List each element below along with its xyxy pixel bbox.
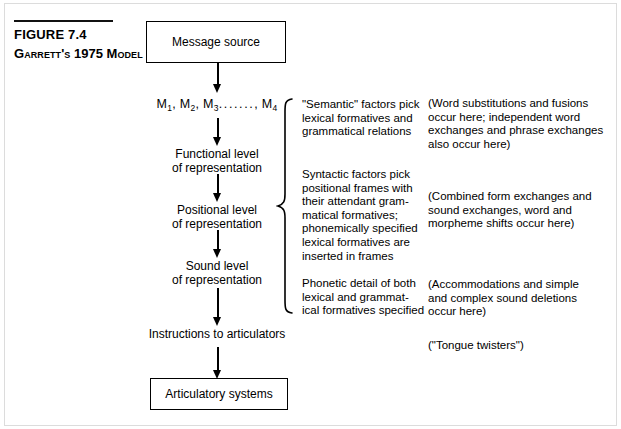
- arrow-sound-to-instructions: [214, 288, 221, 326]
- note-tongue-twisters: ("Tongue twisters"): [428, 339, 618, 353]
- label-functional-level: Functional level of representation: [137, 147, 297, 175]
- figure-title: GARRETT'S 1975 MODEL: [14, 46, 143, 61]
- figure-number: FIGURE 7.4: [14, 27, 87, 42]
- arrow-message-to-m: [214, 63, 221, 93]
- note-accommodations: (Accommodations and simple and complex s…: [428, 278, 618, 319]
- label-m-series: M1, M2, M3......., M4: [137, 97, 297, 112]
- label-sound-level: Sound level of representation: [137, 259, 297, 287]
- note-combined-form-exchanges: (Combined form exchanges and sound excha…: [428, 190, 618, 231]
- label-instructions-to-articulators: Instructions to articulators: [117, 327, 317, 341]
- caption-rule: [14, 20, 113, 22]
- label-positional-level: Positional level of representation: [137, 203, 297, 231]
- box-articulatory-systems: Articulatory systems: [150, 378, 288, 410]
- box-message-source-label: Message source: [172, 35, 260, 49]
- grouping-brace-icon: [276, 98, 298, 314]
- arrow-m-to-functional: [214, 118, 221, 146]
- box-articulatory-systems-label: Articulatory systems: [165, 387, 272, 401]
- arrow-instructions-to-articulatory: [214, 347, 221, 379]
- note-word-substitutions: (Word substitutions and fusions occur he…: [428, 97, 618, 151]
- arrow-positional-to-sound: [214, 230, 221, 258]
- figure-page: FIGURE 7.4 GARRETT'S 1975 MODEL Message …: [0, 0, 621, 429]
- arrow-functional-to-positional: [214, 174, 221, 202]
- box-message-source: Message source: [146, 21, 286, 63]
